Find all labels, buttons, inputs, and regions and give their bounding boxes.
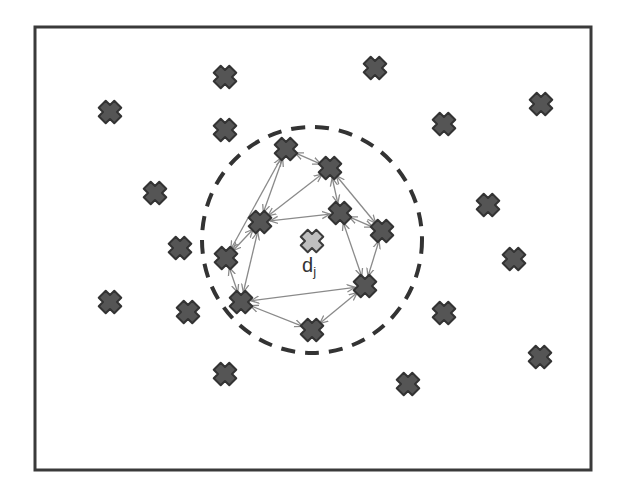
label-subscript: j (313, 264, 316, 279)
edge-F-G (229, 267, 238, 292)
center-node-cross-icon (296, 225, 327, 256)
outer-node-cross-icon (94, 286, 125, 317)
outer-node-cross-icon (392, 368, 423, 399)
inner-node-cross-icon-B (314, 152, 345, 183)
edge-B-D (332, 178, 338, 203)
outer-node-cross-icon (209, 61, 240, 92)
edge-H-I (320, 292, 358, 323)
outer-node-cross-icon (428, 108, 459, 139)
outer-node-cross-icon (209, 114, 240, 145)
neighborhood-diagram (0, 0, 620, 499)
outer-node-cross-icon (139, 177, 170, 208)
outer-node-cross-icon (524, 341, 555, 372)
center-node-label: dj (302, 255, 316, 278)
outer-node-cross-icon (94, 96, 125, 127)
inner-node-cross-icon-A (270, 133, 301, 164)
edge-C-D (270, 214, 330, 221)
outer-node-cross-icon (525, 88, 556, 119)
edge-B-C (268, 174, 322, 216)
inner-node-cross-icon-H (349, 270, 380, 301)
edge-G-H (251, 287, 355, 300)
outer-node-cross-icon (359, 52, 390, 83)
edge-D-E (349, 217, 373, 227)
outer-node-cross-icon (172, 296, 203, 327)
outer-node-cross-icon (209, 358, 240, 389)
edge-A-F (231, 158, 281, 249)
edge-C-G (243, 232, 257, 293)
edge-E-H (368, 241, 379, 277)
edge-D-H (343, 222, 362, 276)
label-main: d (302, 254, 313, 276)
inner-node-cross-icon-D (324, 197, 355, 228)
outer-node-cross-icon (428, 297, 459, 328)
node-group (94, 52, 556, 399)
inner-node-cross-icon-I (296, 314, 327, 345)
outer-node-cross-icon (472, 189, 503, 220)
inner-node-cross-icon-E (366, 215, 397, 246)
outer-node-cross-icon (498, 243, 529, 274)
outer-node-cross-icon (164, 232, 195, 263)
edge-A-B (295, 153, 321, 164)
edge-G-I (250, 306, 302, 327)
